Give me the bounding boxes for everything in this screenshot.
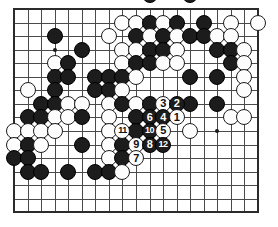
board-edge-top bbox=[13, 8, 259, 10]
board-edge-left bbox=[13, 8, 15, 213]
board-gridline-horizontal bbox=[14, 172, 258, 173]
star-point bbox=[215, 129, 219, 133]
go-stone-black[interactable] bbox=[60, 164, 76, 180]
go-stone-white[interactable] bbox=[169, 55, 185, 71]
go-stone-white[interactable] bbox=[128, 69, 144, 85]
go-stone-black[interactable] bbox=[33, 164, 49, 180]
board-edge-bottom bbox=[13, 211, 259, 213]
move-number-label: 5 bbox=[156, 124, 170, 138]
go-stone-black-move-12[interactable]: 12 bbox=[155, 137, 171, 153]
move-number-label: 1 bbox=[170, 110, 184, 124]
go-stone-black[interactable] bbox=[74, 137, 90, 153]
go-stone-white-move-1[interactable]: 1 bbox=[169, 109, 185, 125]
go-board[interactable]: 326411110598127 bbox=[0, 0, 278, 227]
go-stone-black[interactable] bbox=[209, 96, 225, 112]
go-stone-white[interactable] bbox=[114, 164, 130, 180]
go-stone-white[interactable] bbox=[182, 123, 198, 139]
go-stone-black[interactable] bbox=[47, 28, 63, 44]
board-gridline-horizontal bbox=[14, 199, 258, 200]
star-point bbox=[53, 48, 57, 52]
go-stone-white[interactable] bbox=[236, 109, 252, 125]
go-stone-black[interactable] bbox=[209, 69, 225, 85]
go-stone-white[interactable] bbox=[33, 137, 49, 153]
go-stone-black[interactable] bbox=[74, 109, 90, 125]
go-stone-white[interactable] bbox=[20, 82, 36, 98]
board-gridline-vertical bbox=[95, 9, 96, 212]
board-edge-right bbox=[257, 8, 259, 213]
board-gridline-horizontal bbox=[14, 185, 258, 186]
go-stone-white[interactable] bbox=[101, 28, 117, 44]
go-stone-black[interactable] bbox=[182, 0, 198, 3]
go-stone-white-move-7[interactable]: 7 bbox=[128, 150, 144, 166]
go-stone-black[interactable] bbox=[60, 69, 76, 85]
move-number-label: 7 bbox=[129, 151, 143, 165]
move-number-label: 12 bbox=[156, 138, 170, 152]
go-stone-black[interactable] bbox=[74, 42, 90, 58]
go-stone-black[interactable] bbox=[182, 69, 198, 85]
go-stone-white[interactable] bbox=[47, 123, 63, 139]
go-stone-black[interactable] bbox=[142, 0, 158, 3]
go-stone-white[interactable] bbox=[250, 15, 266, 31]
go-stone-white[interactable] bbox=[236, 82, 252, 98]
move-number-label: 11 bbox=[115, 124, 129, 138]
go-diagram-figure: 326411110598127 bbox=[0, 0, 278, 227]
